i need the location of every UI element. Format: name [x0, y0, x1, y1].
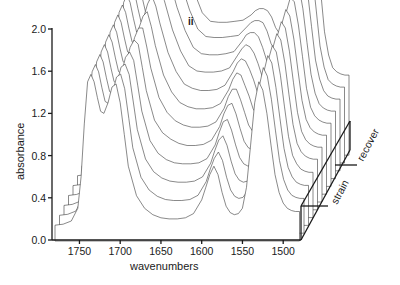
x-tick-label: 1550: [231, 245, 255, 257]
waterfall-chart: 0.00.40.81.21.62.0 175017001650160015501…: [0, 0, 400, 285]
panel-label: ii: [188, 16, 194, 27]
x-axis-title: wavenumbers: [129, 260, 199, 272]
y-tick-label: 0.4: [31, 192, 46, 204]
x-tick-label: 1600: [190, 245, 214, 257]
depth-label-recover: recover: [354, 126, 381, 163]
depth-label-strain: strain: [328, 177, 351, 205]
y-tick-label: 1.2: [31, 107, 46, 119]
x-tick-label: 1500: [272, 245, 296, 257]
y-axis-title: absorbance: [14, 123, 26, 181]
y-tick-label: 1.6: [31, 65, 46, 77]
x-tick-label: 1700: [109, 245, 133, 257]
x-tick-label: 1650: [149, 245, 173, 257]
y-axis-ticks: 0.00.40.81.21.62.0: [31, 23, 52, 246]
spectra-traces: [55, 0, 349, 241]
x-axis-ticks: 175017001650160015501500: [68, 240, 295, 257]
y-tick-label: 0.8: [31, 150, 46, 162]
y-tick-label: 2.0: [31, 23, 46, 35]
x-tick-label: 1750: [68, 245, 92, 257]
y-tick-label: 0.0: [31, 234, 46, 246]
